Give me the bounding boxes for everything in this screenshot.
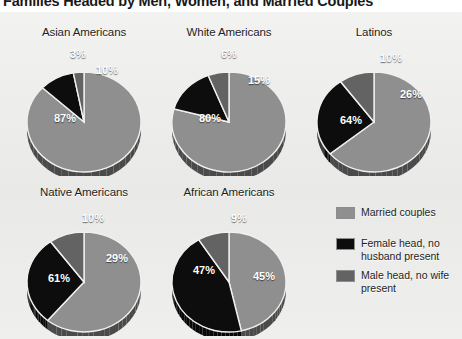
legend: Married couplesFemale head, no husband p… <box>336 206 460 301</box>
legend-label: Male head, no wife present <box>361 269 460 294</box>
pie-body: 80%15%6% <box>163 26 295 176</box>
pie-svg <box>18 186 150 336</box>
pie-svg <box>308 26 440 176</box>
pie-svg <box>163 186 295 336</box>
pie-chart-3: Latinos64%26%10% <box>308 26 440 176</box>
page-title: Families Headed by Men, Women, and Marri… <box>3 0 459 11</box>
pie-chart-2: White Americans80%15%6% <box>163 26 295 176</box>
pie-body: 64%26%10% <box>308 26 440 176</box>
legend-item: Male head, no wife present <box>336 269 460 294</box>
pie-body: 47%45%9% <box>163 186 295 336</box>
pie-chart-1: Asian Americans87%10%3% <box>18 26 150 176</box>
pie-chart-4: Native Americans61%29%10% <box>18 186 150 336</box>
pie-slices <box>172 72 286 172</box>
pie-slices <box>27 72 141 172</box>
legend-swatch-icon <box>336 238 355 250</box>
pie-svg <box>18 26 150 176</box>
legend-swatch-icon <box>336 207 355 219</box>
pie-body: 87%10%3% <box>18 26 150 176</box>
legend-label: Female head, no husband present <box>361 237 460 262</box>
pie-svg <box>163 26 295 176</box>
pie-slices <box>317 72 431 172</box>
pie-slices <box>27 232 141 332</box>
legend-label: Married couples <box>361 206 460 219</box>
pie-slices <box>172 232 286 332</box>
pie-body: 61%29%10% <box>18 186 150 336</box>
legend-item: Married couples <box>336 206 460 230</box>
pie-chart-5: African Americans47%45%9% <box>163 186 295 336</box>
legend-swatch-icon <box>336 270 355 282</box>
figure: Families Headed by Men, Women, and Marri… <box>0 0 462 339</box>
legend-item: Female head, no husband present <box>336 237 460 262</box>
